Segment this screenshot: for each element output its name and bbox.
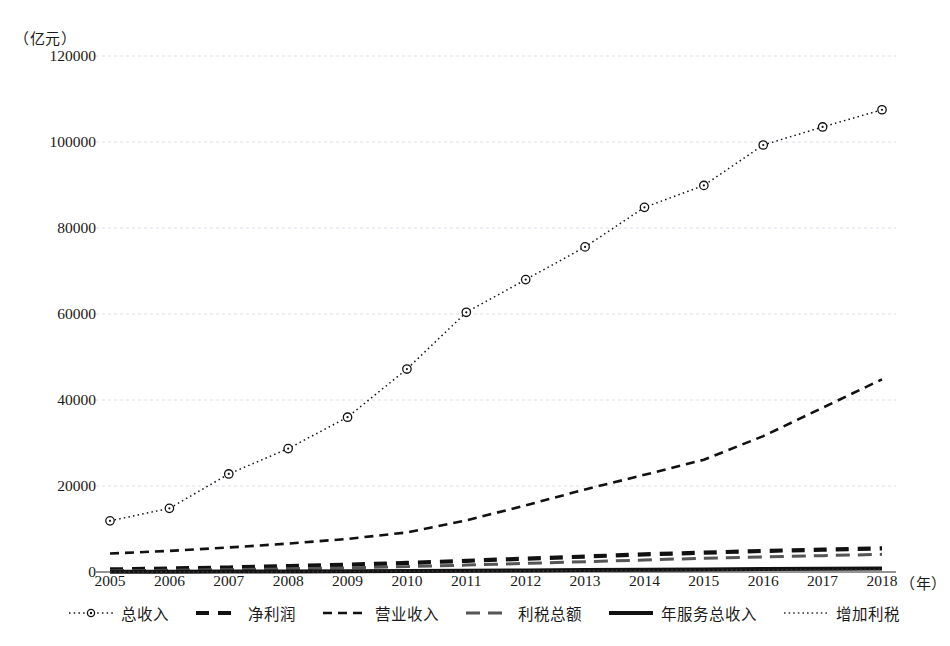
data-point-center: [822, 126, 824, 128]
legend-label: 营业收入: [375, 602, 439, 624]
x-axis-tick-label: 2015: [688, 572, 719, 590]
legend-label: 利税总额: [518, 602, 582, 624]
legend-marker-dotted-marker: [68, 606, 114, 620]
x-axis-tick-label: 2017: [807, 572, 838, 590]
series-line: [110, 379, 882, 553]
y-axis-tick-label: 40000: [10, 391, 96, 409]
y-axis-tick-label: 20000: [10, 477, 96, 495]
legend-label: 年服务总收入: [661, 602, 757, 624]
x-axis-tick-label: 2016: [748, 572, 779, 590]
legend-marker-dotted: [783, 606, 829, 620]
y-axis-tick-label: 60000: [10, 305, 96, 323]
y-axis-tick-label: 0: [10, 563, 96, 581]
legend-label: 增加利税: [836, 602, 900, 624]
x-axis-tick-label: 2013: [570, 572, 601, 590]
data-point-center: [881, 109, 883, 111]
y-axis-tick-label: 100000: [10, 133, 96, 151]
x-axis-tick-label: 2011: [451, 572, 481, 590]
data-point-center: [109, 520, 111, 522]
x-axis-tick-label: 2009: [332, 572, 363, 590]
chart-legend: 总收入净利润营业收入利税总额年服务总收入增加利税: [68, 598, 908, 628]
x-axis-tick-label: 2005: [95, 572, 126, 590]
legend-marker-solid-thick: [608, 606, 654, 620]
y-axis-tick-label: 80000: [10, 219, 96, 237]
legend-item[interactable]: 营业收入: [322, 602, 465, 624]
x-axis-tick-label: 2010: [391, 572, 422, 590]
legend-marker-fine-dash: [322, 606, 368, 620]
data-point-center: [584, 246, 586, 248]
series-line: [110, 110, 882, 521]
data-point-center: [465, 311, 467, 313]
y-axis-tick-labels: 020000400006000080000100000120000: [0, 0, 96, 646]
x-axis-unit-label: （年）: [900, 572, 947, 593]
plot-area: [96, 56, 896, 572]
y-axis-tick-label: 120000: [10, 47, 96, 65]
x-axis-tick-label: 2007: [213, 572, 244, 590]
x-axis-tick-label: 2012: [510, 572, 541, 590]
data-point-center: [762, 144, 764, 146]
legend-label: 净利润: [248, 602, 296, 624]
legend-item[interactable]: 利税总额: [465, 602, 608, 624]
data-point-center: [406, 368, 408, 370]
x-axis-tick-label: 2008: [273, 572, 304, 590]
x-axis-tick-label: 2006: [154, 572, 185, 590]
series-line: [110, 548, 882, 569]
x-axis-tick-label: 2014: [629, 572, 660, 590]
legend-item[interactable]: 总收入: [68, 602, 195, 624]
line-chart: （亿元） 020000400006000080000100000120000 2…: [0, 0, 950, 646]
data-point-center: [703, 184, 705, 186]
data-point-center: [525, 279, 527, 281]
legend-marker-thick-dash: [195, 606, 241, 620]
legend-item[interactable]: 净利润: [195, 602, 322, 624]
data-point-center: [643, 206, 645, 208]
legend-item[interactable]: 年服务总收入: [608, 602, 783, 624]
legend-item[interactable]: 增加利税: [783, 602, 926, 624]
data-point-center: [346, 416, 348, 418]
data-point-center: [228, 473, 230, 475]
data-point-center: [287, 447, 289, 449]
legend-marker-long-dash: [465, 606, 511, 620]
x-axis-tick-label: 2018: [867, 572, 898, 590]
legend-label: 总收入: [121, 602, 169, 624]
data-point-center: [168, 507, 170, 509]
